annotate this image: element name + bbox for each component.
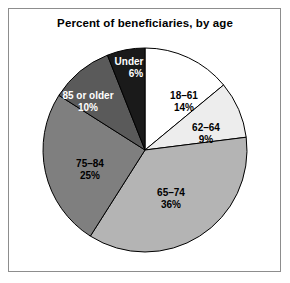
slice-label-65-74: 65–74 36% [126, 187, 216, 210]
slice-label-name: 85 or older [43, 90, 133, 102]
slice-label-85-or-older: 85 or older 10% [43, 90, 133, 113]
slice-label-value: 10% [43, 102, 133, 114]
slice-label-under-18: Under 18 6% [91, 56, 181, 79]
pie-chart: 18–61 14% 62–64 9% 65–74 36% 75–84 25% 8… [0, 0, 290, 283]
slice-label-name: 75–84 [45, 158, 135, 170]
slice-label-18-61: 18–61 14% [139, 90, 229, 113]
slice-label-name: 62–64 [161, 122, 251, 134]
slice-label-name: Under 18 [91, 56, 181, 68]
slice-label-value: 36% [126, 199, 216, 211]
slice-label-value: 6% [91, 68, 181, 80]
slice-label-75-84: 75–84 25% [45, 158, 135, 181]
slice-label-62-64: 62–64 9% [161, 122, 251, 145]
slice-label-name: 18–61 [139, 90, 229, 102]
slice-label-value: 14% [139, 102, 229, 114]
chart-figure: Percent of beneficiaries, by age 18–61 1… [0, 0, 290, 283]
slice-label-value: 9% [161, 134, 251, 146]
slice-label-name: 65–74 [126, 187, 216, 199]
slice-label-value: 25% [45, 170, 135, 182]
